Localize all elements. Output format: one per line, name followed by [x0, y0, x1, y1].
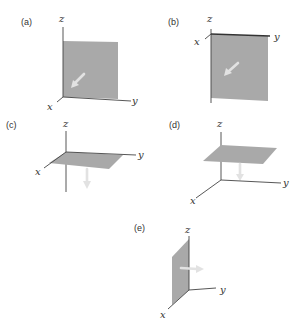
panel-e-z-label: z — [184, 224, 191, 235]
panel-a-x-label: x — [47, 101, 53, 112]
panel-d-plane — [203, 145, 277, 164]
panel-c-label: (c) — [6, 120, 17, 130]
panel-d-normal-arrow-icon — [236, 164, 244, 181]
panel-a-label: (a) — [21, 17, 32, 27]
panel-c-x-label: x — [35, 166, 41, 177]
panel-d-y-label: y — [282, 177, 289, 188]
panel-e-y-label: y — [219, 284, 226, 295]
panel-a-plane — [63, 41, 118, 99]
panel-b-plane — [211, 34, 268, 101]
panel-b-label: (b) — [168, 17, 179, 27]
panel-e-label: (e) — [134, 223, 145, 233]
panel-b: (b) z y x — [168, 13, 280, 103]
panel-e-x-label: x — [160, 309, 166, 320]
panel-a: (a) z y x — [21, 13, 138, 112]
panel-d-z-label: z — [216, 118, 223, 129]
panel-d: (d) z y x — [169, 118, 289, 206]
panel-a-z-label: z — [58, 13, 65, 24]
panel-b-y-label: y — [273, 31, 280, 42]
panel-a-x-axis — [57, 97, 63, 102]
panel-c-plane — [49, 152, 123, 169]
panel-e-plane — [172, 239, 189, 305]
panel-e-y-axis — [189, 288, 216, 290]
panel-c-y-label: y — [137, 149, 144, 160]
panel-e: (e) z y x — [134, 223, 226, 320]
panel-c-z-label: z — [62, 118, 69, 129]
panel-d-x-label: x — [190, 195, 196, 206]
panel-c-normal-arrow-icon — [83, 169, 91, 189]
figure-canvas: (a) z y x (b) z y x (c) — [0, 0, 304, 332]
panel-b-z-label: z — [206, 13, 213, 24]
panel-d-y-axis — [221, 180, 281, 183]
panel-c: (c) z y x — [6, 118, 144, 192]
panel-b-x-axis — [205, 34, 211, 39]
panel-b-x-label: x — [194, 36, 200, 47]
panel-d-x-axis — [196, 180, 221, 198]
panel-d-label: (d) — [169, 120, 180, 130]
panel-a-y-label: y — [131, 95, 138, 106]
